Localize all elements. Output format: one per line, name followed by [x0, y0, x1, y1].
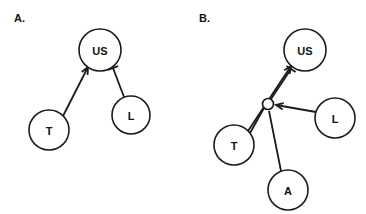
- figure-root: A.USTLB.USTLA: [0, 0, 366, 214]
- edge-a-l-to-us: [108, 66, 124, 97]
- edge-b-junction-to-us: [271, 66, 296, 99]
- node-label-a: A: [284, 185, 292, 197]
- node-label-l: L: [332, 113, 339, 125]
- node-panel-a-l: L: [112, 96, 150, 134]
- node-label-us: US: [92, 45, 107, 57]
- edge-line-a-t-to-us: [63, 67, 88, 116]
- junction-node-b-junction: [263, 99, 274, 110]
- edge-line-b-a-to-junction: [269, 111, 281, 171]
- node-panel-b-us: US: [284, 29, 326, 71]
- node-panel-b-a: A: [268, 170, 308, 210]
- node-panel-b-t: T: [214, 125, 254, 165]
- panel-b-label: B.: [199, 12, 210, 24]
- node-label-t: T: [231, 140, 238, 152]
- node-panel-a-t: T: [29, 110, 69, 150]
- panel-b: B.USTLA: [199, 12, 355, 210]
- node-label-t: T: [46, 125, 53, 137]
- panel-a: A.USTL: [14, 12, 150, 150]
- node-panel-a-us: US: [79, 29, 121, 71]
- node-panel-b-l: L: [315, 98, 355, 138]
- edge-line-a-l-to-us: [113, 68, 124, 97]
- edge-b-a-to-junction: [269, 111, 281, 171]
- causal-diagram-canvas: A.USTLB.USTLA: [0, 0, 366, 214]
- edge-line-b-junction-to-us: [271, 69, 291, 99]
- node-label-l: L: [128, 110, 135, 122]
- edge-b-t-to-junction: [250, 108, 264, 133]
- edge-line-b-t-to-junction: [250, 108, 264, 133]
- node-label-us: US: [297, 45, 312, 57]
- panel-a-label: A.: [14, 12, 25, 24]
- edge-a-t-to-us: [63, 67, 88, 116]
- edge-b-l-to-junction: [276, 103, 316, 112]
